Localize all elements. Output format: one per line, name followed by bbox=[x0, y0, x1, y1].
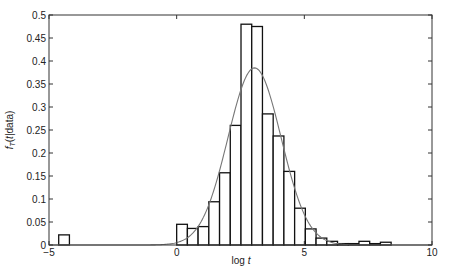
histogram-bar bbox=[262, 114, 273, 245]
histogram-bars bbox=[59, 24, 391, 245]
y-tick-label: 0.1 bbox=[32, 194, 46, 205]
histogram-bar bbox=[59, 235, 70, 245]
y-tick-label: 0.4 bbox=[32, 56, 46, 67]
x-axis-label: log t bbox=[232, 255, 252, 266]
histogram-bar bbox=[252, 27, 263, 246]
y-tick-label: 0.35 bbox=[27, 79, 47, 90]
y-tick-label: 0.2 bbox=[32, 148, 46, 159]
histogram-bar bbox=[198, 227, 209, 245]
y-tick-label: 0.5 bbox=[32, 10, 46, 21]
y-tick-label: 0.45 bbox=[27, 33, 47, 44]
x-tick-label: 10 bbox=[426, 247, 438, 258]
y-tick-label: 0.3 bbox=[32, 102, 46, 113]
histogram-bar bbox=[273, 136, 284, 245]
y-axis-label: fT(t|data) bbox=[4, 111, 16, 150]
x-tick-label: 0 bbox=[174, 247, 180, 258]
y-tick-label: 0.15 bbox=[27, 171, 47, 182]
histogram-bar bbox=[316, 238, 327, 245]
histogram-bar bbox=[209, 202, 220, 245]
x-tick-label: −5 bbox=[43, 247, 55, 258]
y-tick-label: 0.05 bbox=[27, 217, 47, 228]
histogram-bar bbox=[241, 24, 252, 245]
y-tick-label: 0.25 bbox=[27, 125, 47, 136]
histogram-bar bbox=[220, 173, 231, 245]
histogram-chart: 00.050.10.150.20.250.30.350.40.450.5 −50… bbox=[0, 0, 449, 273]
x-tick-label: 5 bbox=[302, 247, 308, 258]
histogram-bar bbox=[230, 125, 241, 245]
